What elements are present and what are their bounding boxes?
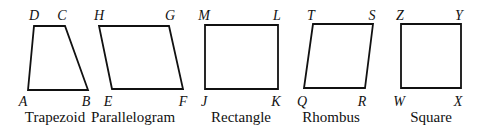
vertex-label-z: Z (396, 8, 404, 23)
vertex-label-k: K (270, 94, 281, 109)
vertex-label-r: R (357, 94, 367, 109)
vertex-label-a: A (18, 94, 28, 109)
vertex-label-d: D (28, 8, 39, 23)
rhombus-figure: TSQRRhombus (297, 8, 376, 125)
vertex-label-t: T (307, 8, 316, 23)
rectangle-figure: MLJKRectangle (197, 8, 281, 125)
vertex-label-s: S (369, 8, 376, 23)
vertex-label-j: J (201, 94, 208, 109)
trapezoid-outline (28, 26, 88, 90)
square-outline (401, 24, 461, 88)
vertex-label-e: E (103, 94, 113, 109)
shape-name-label: Rectangle (211, 109, 271, 125)
vertex-label-y: Y (455, 8, 465, 23)
vertex-label-f: F (178, 94, 188, 109)
vertex-label-b: B (82, 94, 91, 109)
shape-name-label: Trapezoid (25, 109, 86, 125)
square-figure: ZYWXSquare (393, 8, 465, 125)
rectangle-outline (205, 25, 278, 89)
vertex-label-w: W (393, 94, 406, 109)
trapezoid-figure: DCABTrapezoid (18, 8, 91, 125)
vertex-label-m: M (197, 8, 211, 23)
vertex-label-c: C (57, 8, 67, 23)
vertex-label-q: Q (297, 94, 307, 109)
parallelogram-figure: HGEFParallelogram (91, 8, 188, 125)
parallelogram-outline (99, 26, 183, 89)
shape-name-label: Rhombus (302, 109, 360, 125)
shape-name-label: Square (410, 109, 452, 125)
quadrilaterals-figure: DCABTrapezoid HGEFParallelogram MLJKRect… (0, 0, 486, 135)
shape-name-label: Parallelogram (91, 109, 175, 125)
vertex-label-l: L (272, 8, 281, 23)
rhombus-outline (304, 24, 373, 88)
vertex-label-h: H (93, 8, 105, 23)
vertex-label-x: X (453, 94, 463, 109)
vertex-label-g: G (165, 8, 175, 23)
